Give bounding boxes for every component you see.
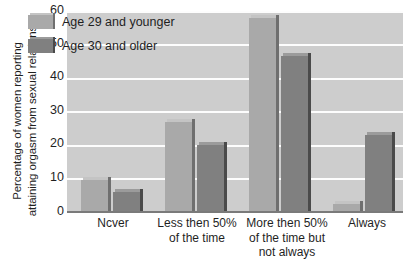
x-tick-label-always-line-1: Always [331, 216, 403, 231]
legend-swatch-icon-light [28, 15, 53, 29]
y-axis-title-line-1: Percentage of women reporting [10, 42, 25, 200]
bar-chart-figure: Percentage of women reporting attaining … [0, 0, 415, 262]
x-tick-label-less-then-50-line-1: Less then 50% [149, 216, 245, 231]
bar-less-then-50-age-29-and-younger [165, 122, 192, 212]
bar-more-then-50-age-29-and-younger [249, 18, 276, 212]
bar-group-more-then-50 [243, 11, 319, 212]
legend: Age 29 and younger Age 30 and older [28, 8, 218, 63]
bar-more-then-50-age-30-and-older [281, 56, 308, 212]
x-tick-label-never: Ncver [67, 216, 159, 231]
x-tick-label-more-then-50-line-1: More then 50% [237, 216, 337, 231]
bar-never-age-30-and-older [113, 192, 140, 212]
legend-item-age-29-and-younger: Age 29 and younger [28, 11, 218, 32]
x-tick-label-less-then-50: Less then 50%of the time [149, 216, 245, 245]
y-tick-label-40: 40 [50, 70, 64, 83]
bar-never-age-29-and-younger [81, 180, 108, 212]
x-axis-tick-labels: Ncver Less then 50%of the time More then… [67, 216, 403, 262]
legend-item-age-30-and-older: Age 30 and older [28, 35, 218, 56]
x-axis-baseline [67, 211, 403, 213]
bar-always-age-30-and-older [365, 135, 392, 212]
x-tick-label-never-line-1: Ncver [67, 216, 159, 231]
bar-less-then-50-age-30-and-older [197, 145, 224, 212]
legend-label-age-30-and-older: Age 30 and older [62, 39, 157, 53]
y-tick-label-30: 30 [50, 104, 64, 117]
bar-group-always [327, 11, 403, 212]
y-tick-label-0: 0 [57, 205, 64, 218]
y-tick-label-10: 10 [50, 171, 64, 184]
y-tick-label-20: 20 [50, 137, 64, 150]
legend-label-age-29-and-younger: Age 29 and younger [62, 15, 175, 29]
legend-swatch-icon-dark [28, 39, 53, 53]
x-tick-label-more-then-50-line-3: not always [237, 245, 337, 260]
x-tick-label-less-then-50-line-2: of the time [149, 231, 245, 246]
x-tick-label-more-then-50: More then 50%of the time butnot always [237, 216, 337, 260]
x-tick-label-always: Always [331, 216, 403, 231]
x-tick-label-more-then-50-line-2: of the time but [237, 231, 337, 246]
